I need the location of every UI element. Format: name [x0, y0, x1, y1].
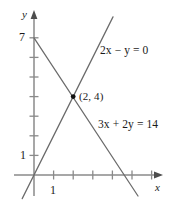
y-tick-label-7: 7 — [19, 31, 25, 43]
graph-figure: y x 7 1 1 2x − y = 0 3x + 2y = 14 (2, 4) — [0, 0, 171, 210]
x-axis-label: x — [155, 182, 160, 193]
x-tick-label-1: 1 — [50, 184, 56, 196]
y-axis-arrowhead — [31, 10, 38, 19]
coordinate-plot — [0, 0, 171, 210]
intersection-point-marker — [71, 94, 76, 99]
line-3x-plus-2y-equals-14 — [34, 38, 138, 196]
equation-label-line2: 3x + 2y = 14 — [98, 119, 158, 131]
x-axis-arrowhead — [154, 172, 163, 179]
y-tick-label-1: 1 — [20, 149, 26, 161]
y-axis-label: y — [22, 9, 27, 20]
intersection-point-label: (2, 4) — [79, 91, 103, 102]
equation-label-line1: 2x − y = 0 — [100, 45, 148, 57]
